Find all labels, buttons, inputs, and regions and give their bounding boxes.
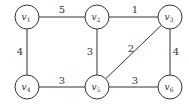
- edge-weight-label: 5: [59, 4, 65, 15]
- edge-weight-label: 3: [87, 46, 93, 57]
- weighted-graph: 51432433 v1v2v3v4v5v6: [0, 0, 189, 106]
- edge-weight-label: 1: [132, 4, 138, 15]
- edge-weight-label: 4: [173, 46, 179, 57]
- nodes: v1v2v3v4v5v6: [15, 5, 182, 99]
- edge-weight-label: 2: [128, 43, 134, 54]
- edge-weight-label: 3: [132, 75, 138, 86]
- edge-weight-label: 3: [59, 75, 65, 86]
- edge-weight-label: 4: [17, 46, 23, 57]
